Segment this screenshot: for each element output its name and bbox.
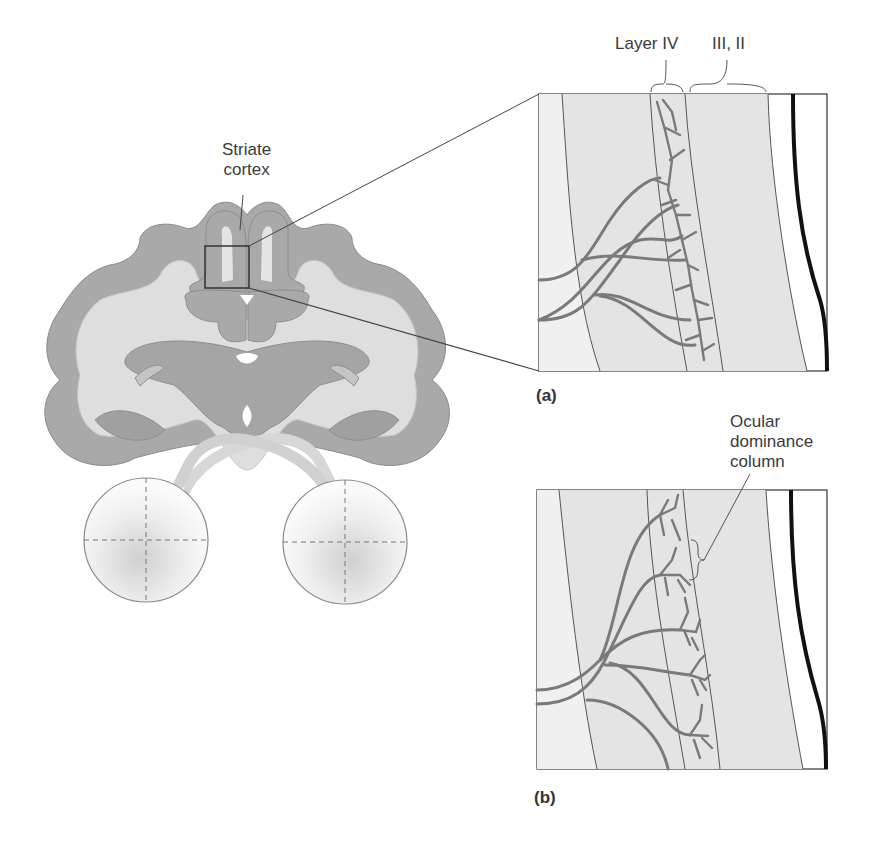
layer-iv-label: Layer IV xyxy=(615,34,678,54)
striate-label-line1: Striate xyxy=(222,140,271,160)
eye-left xyxy=(84,478,208,602)
zoom-line-top xyxy=(249,94,539,246)
ocular-dominance-label: Ocular dominance column xyxy=(730,412,813,472)
panel-a xyxy=(539,94,827,371)
striate-label-line2: cortex xyxy=(222,160,271,180)
panel-a-tag: (a) xyxy=(536,386,557,406)
layer-brackets xyxy=(651,60,766,92)
striate-cortex-label: Striate cortex xyxy=(222,140,271,180)
layer-iii-ii-label: III, II xyxy=(712,34,745,54)
ocular-label-line1: Ocular xyxy=(730,412,813,432)
ocular-label-line3: column xyxy=(730,452,813,472)
eye-right xyxy=(283,480,407,604)
ocular-label-line2: dominance xyxy=(730,432,813,452)
panel-b xyxy=(537,474,827,769)
panel-b-tag: (b) xyxy=(534,788,556,808)
